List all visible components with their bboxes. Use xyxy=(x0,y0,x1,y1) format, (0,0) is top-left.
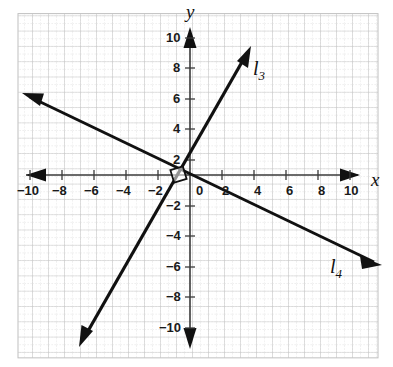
x-tick-label: −4 xyxy=(116,184,131,197)
line-label-l4: l4 xyxy=(330,256,342,280)
y-axis-label: y xyxy=(186,2,194,21)
y-tick-label: −4 xyxy=(166,229,181,242)
x-tick-label: −2 xyxy=(148,184,163,197)
x-tick-label: 6 xyxy=(286,184,293,197)
y-tick-label: 10 xyxy=(166,31,180,44)
x-axis-label: x xyxy=(371,170,379,189)
y-tick-label: −6 xyxy=(166,260,181,273)
y-tick-label: 4 xyxy=(173,122,180,135)
x-tick-label: −8 xyxy=(52,184,67,197)
y-tick-label: 2 xyxy=(173,153,180,166)
x-tick-label: 8 xyxy=(318,184,325,197)
x-tick-label: 2 xyxy=(222,184,229,197)
y-tick-label: −10 xyxy=(159,321,181,334)
line-label-l3: l3 xyxy=(253,58,265,82)
graph-figure: y x −10 −8 −6 −4 −2 0 2 4 6 8 10 10 8 6 … xyxy=(0,0,393,367)
line-label-l3-subscript: 3 xyxy=(259,68,266,83)
y-tick-label: −8 xyxy=(166,290,181,303)
y-tick-label: 8 xyxy=(173,61,180,74)
line-label-l4-subscript: 4 xyxy=(336,266,343,281)
x-tick-label: 4 xyxy=(254,184,261,197)
right-angle-marker xyxy=(170,166,186,182)
x-tick-label: −10 xyxy=(17,184,39,197)
x-tick-label: 0 xyxy=(196,184,203,197)
y-tick-label: −2 xyxy=(166,199,181,212)
y-tick-label: 6 xyxy=(173,92,180,105)
x-tick-label: −6 xyxy=(84,184,99,197)
x-tick-label: 10 xyxy=(344,184,358,197)
